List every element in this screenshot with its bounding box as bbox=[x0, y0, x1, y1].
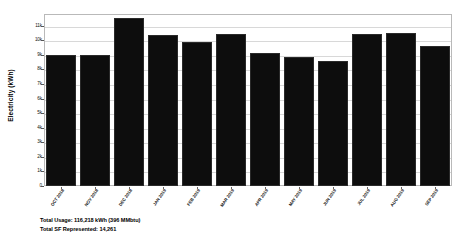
bar-apr-2019[interactable] bbox=[250, 53, 279, 186]
x-tick-label: MAY 2019 bbox=[288, 188, 303, 207]
x-tick-label: JUN 2019 bbox=[322, 188, 337, 207]
x-tick-label: FEB 2019 bbox=[186, 188, 201, 207]
y-tick-label: 8k bbox=[4, 67, 44, 72]
x-tick-label: AUG 2019 bbox=[389, 188, 405, 208]
x-tick-wrap: AUG 2019 bbox=[384, 187, 418, 217]
bar-dec-2018[interactable] bbox=[114, 18, 143, 186]
x-tick-wrap: NOV 2018 bbox=[78, 187, 112, 217]
chart-footer: Total Usage: 116,218 kWh (396 MMbtu) Tot… bbox=[40, 216, 440, 234]
x-tick-wrap: OCT 2018 bbox=[44, 187, 78, 217]
bar-jan-2019[interactable] bbox=[148, 35, 177, 186]
footer-total-sf: Total SF Represented: 14,261 bbox=[40, 225, 440, 234]
x-tick-wrap: FEB 2019 bbox=[180, 187, 214, 217]
x-tick-wrap: MAY 2019 bbox=[282, 187, 316, 217]
y-tick-label: 1k bbox=[4, 169, 44, 174]
x-tick-wrap: DEC 2018 bbox=[112, 187, 146, 217]
bar-aug-2019[interactable] bbox=[386, 33, 415, 186]
bar-oct-2018[interactable] bbox=[46, 55, 75, 186]
x-tick-wrap: SEP 2019 bbox=[418, 187, 452, 217]
x-tick-label: JAN 2019 bbox=[152, 188, 167, 207]
bar-may-2019[interactable] bbox=[284, 57, 313, 186]
bar-nov-2018[interactable] bbox=[80, 55, 109, 186]
x-tick-label: JUL 2019 bbox=[356, 188, 371, 206]
bar-jun-2019[interactable] bbox=[318, 61, 347, 186]
x-tick-label: NOV 2018 bbox=[83, 188, 99, 207]
y-tick-label: 5k bbox=[4, 111, 44, 116]
y-tick-label: 0 bbox=[4, 184, 44, 189]
x-tick-wrap: MAR 2019 bbox=[214, 187, 248, 217]
bar-sep-2019[interactable] bbox=[420, 46, 449, 186]
x-tick-label: MAR 2019 bbox=[219, 188, 235, 208]
bar-mar-2019[interactable] bbox=[216, 34, 245, 186]
bars-layer bbox=[44, 14, 452, 186]
y-tick-label: 6k bbox=[4, 97, 44, 102]
x-tick-wrap: APR 2019 bbox=[248, 187, 282, 217]
y-axis-ticks: 11k10k9k8k7k6k5k4k3k2k1k0 bbox=[0, 14, 44, 186]
footer-total-usage: Total Usage: 116,218 kWh (396 MMbtu) bbox=[40, 216, 440, 225]
x-tick-label: OCT 2018 bbox=[50, 188, 65, 207]
electricity-bar-chart: Electricity (kWh) 11k10k9k8k7k6k5k4k3k2k… bbox=[0, 0, 463, 252]
x-tick-wrap: JAN 2019 bbox=[146, 187, 180, 217]
y-tick-label: 2k bbox=[4, 155, 44, 160]
bar-feb-2019[interactable] bbox=[182, 42, 211, 186]
y-tick-label: 4k bbox=[4, 126, 44, 131]
x-tick-wrap: JUN 2019 bbox=[316, 187, 350, 217]
y-tick-label: 7k bbox=[4, 82, 44, 87]
x-tick-label: SEP 2019 bbox=[424, 188, 439, 207]
x-tick-wrap: JUL 2019 bbox=[350, 187, 384, 217]
x-tick-label: DEC 2018 bbox=[118, 188, 133, 207]
bar-jul-2019[interactable] bbox=[352, 34, 381, 186]
y-tick-label: 3k bbox=[4, 140, 44, 145]
x-axis-ticks: OCT 2018NOV 2018DEC 2018JAN 2019FEB 2019… bbox=[44, 187, 452, 217]
y-tick-label: 9k bbox=[4, 53, 44, 58]
y-tick-label: 11k bbox=[4, 24, 44, 29]
y-tick-label: 10k bbox=[4, 38, 44, 43]
x-tick-label: APR 2019 bbox=[254, 188, 269, 207]
